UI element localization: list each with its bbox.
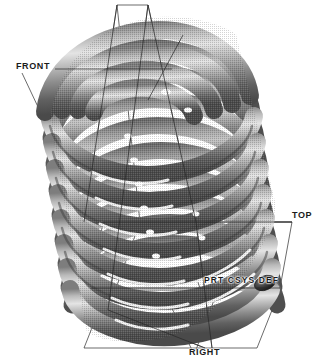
model-scene[interactable] bbox=[0, 0, 324, 360]
coordinate-system-label[interactable]: PRT CSYS DEF bbox=[204, 276, 279, 285]
cad-3d-viewport[interactable]: FRONT TOP RIGHT PRT CSYS DEF bbox=[0, 0, 324, 360]
datum-label-right[interactable]: RIGHT bbox=[189, 348, 220, 357]
datum-label-top[interactable]: TOP bbox=[292, 211, 312, 220]
coil-spring-model[interactable] bbox=[0, 0, 324, 360]
datum-label-front[interactable]: FRONT bbox=[16, 62, 50, 71]
